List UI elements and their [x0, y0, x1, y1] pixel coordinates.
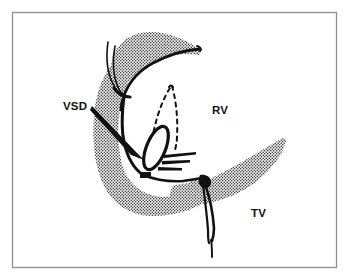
- right-chordae-tail: [211, 240, 212, 257]
- septal-marker-block: [140, 172, 151, 178]
- tv-root-stipple-patch: [168, 183, 206, 205]
- anatomy-diagram: VSD RV TV: [0, 0, 354, 279]
- label-vsd: VSD: [63, 100, 87, 112]
- label-tv: TV: [251, 207, 266, 219]
- label-rv: RV: [212, 104, 228, 116]
- figure-root: VSD RV TV: [0, 0, 354, 279]
